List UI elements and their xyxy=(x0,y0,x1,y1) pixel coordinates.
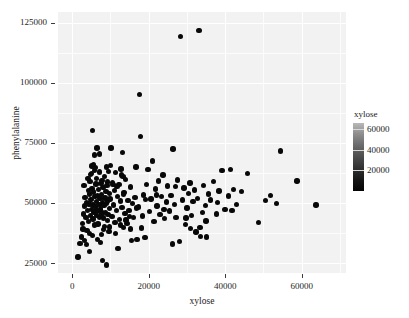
legend-tick-mark xyxy=(353,150,364,151)
legend-tick-label: 40000 xyxy=(367,145,390,154)
legend-tick-label: 20000 xyxy=(367,166,390,175)
y-axis-title: phenylalanine xyxy=(11,73,21,193)
x-axis-tick-mark xyxy=(302,274,303,278)
y-axis-tick-mark xyxy=(51,203,55,204)
x-axis-title: xylose xyxy=(58,296,346,306)
legend-tick-mark xyxy=(353,129,364,130)
x-axis-tick-mark xyxy=(72,274,73,278)
x-axis-tick-mark xyxy=(149,274,150,278)
x-axis-tick-mark xyxy=(225,274,226,278)
y-axis-tick-mark xyxy=(51,263,55,264)
x-axis-tick-label: 0 xyxy=(70,282,75,291)
y-axis-tick-mark xyxy=(51,83,55,84)
scatter-plot-figure: 250005000075000100000125000 020000400006… xyxy=(0,0,409,318)
x-axis-tick-label: 20000 xyxy=(137,282,160,291)
y-axis-tick-mark xyxy=(51,143,55,144)
x-axis-tick-labels: 0200004000060000 xyxy=(0,0,409,318)
legend-gradient-bar xyxy=(353,123,364,191)
y-axis-tick-mark xyxy=(51,23,55,24)
legend-title: xylose xyxy=(354,110,378,119)
legend-tick-mark xyxy=(353,170,364,171)
x-axis-tick-label: 40000 xyxy=(214,282,237,291)
x-axis-tick-label: 60000 xyxy=(290,282,313,291)
legend-colorbar: xylose 200004000060000 xyxy=(352,110,409,198)
legend-tick-label: 60000 xyxy=(367,125,390,134)
